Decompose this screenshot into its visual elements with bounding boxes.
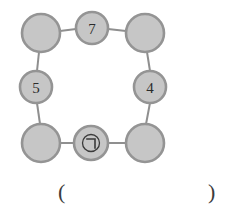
answer-blank-field[interactable] — [70, 181, 206, 205]
edge-top-right-to-middle-right — [147, 52, 150, 71]
node-middle-right[interactable]: 4 — [134, 71, 166, 103]
edge-top-left-to-top-center — [60, 29, 76, 31]
edge-top-center-to-top-right — [108, 29, 126, 31]
node-circle-top-right[interactable] — [126, 14, 164, 52]
answer-close-paren: ) — [208, 181, 215, 203]
node-circle-bottom-center[interactable] — [74, 126, 108, 160]
node-bottom-center[interactable] — [74, 126, 108, 160]
node-middle-left[interactable]: 5 — [20, 71, 52, 103]
node-label-middle-right: 4 — [146, 80, 154, 96]
edge-middle-left-to-bottom-left — [37, 103, 40, 124]
node-bottom-right[interactable] — [126, 124, 164, 162]
node-bottom-left[interactable] — [22, 124, 60, 162]
edge-top-left-to-middle-left — [37, 52, 39, 71]
node-top-left[interactable] — [22, 14, 60, 52]
edge-middle-right-to-bottom-right — [146, 103, 150, 124]
node-circle-bottom-left[interactable] — [22, 124, 60, 162]
node-top-right[interactable] — [126, 14, 164, 52]
node-circle-top-left[interactable] — [22, 14, 60, 52]
answer-open-paren: ( — [58, 181, 65, 203]
node-top-center[interactable]: 7 — [76, 12, 108, 44]
node-circle-bottom-right[interactable] — [126, 124, 164, 162]
puzzle-figure: 7 5 4 — [0, 0, 234, 218]
node-label-middle-left: 5 — [32, 80, 40, 96]
node-label-top-center: 7 — [88, 21, 96, 37]
